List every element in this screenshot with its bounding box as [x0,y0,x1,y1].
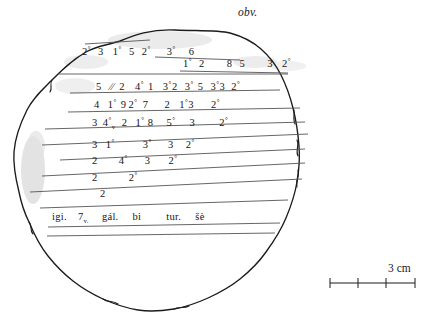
transliteration-line-1: 2°31°52°3°6 [82,46,195,57]
transliteration-colophon: igi.7v.gál.bitur.šè [52,211,205,222]
transliteration-line-2: 1°28532° [183,58,291,69]
tablet-figure: obv. [0,0,433,318]
scale-bar [330,278,415,288]
ruling-line-10 [30,179,302,192]
transliteration-line-6: 31°3°32° [92,139,195,150]
tablet-outline-wobble [29,80,298,309]
transliteration-line-9: 2 [100,188,106,199]
transliteration-line-4: 41°92°721°32° [94,99,220,110]
ruling-lines [30,40,308,236]
transliteration-line-5: 34°v21°85°32° [92,117,228,128]
scale-bar-label: 3 cm [388,262,411,274]
ruling-line-2 [180,71,288,73]
transliteration-line-7: 24°32° [92,155,178,166]
tablet-drawing [0,0,433,318]
transliteration-line-8: 22° [92,172,138,183]
ruling-line-11 [40,200,288,208]
transliteration-line-3: 5∕∕24°13°23°53°32° [96,81,240,92]
ruling-line-13 [47,233,275,236]
